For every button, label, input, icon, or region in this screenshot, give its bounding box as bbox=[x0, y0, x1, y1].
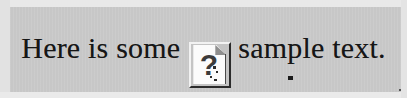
scan-artifact-speck bbox=[288, 76, 293, 80]
scan-artifact-dot bbox=[399, 89, 401, 91]
scan-speck bbox=[214, 79, 217, 81]
question-mark-glyph: ? bbox=[193, 45, 226, 84]
text-line: Here is some ? sample text. bbox=[0, 0, 407, 98]
scan-speck bbox=[210, 76, 212, 78]
text-line-run: Here is some ? sample text. bbox=[21, 33, 385, 79]
text-after-image: sample text. bbox=[238, 33, 385, 63]
scan-speck bbox=[213, 66, 216, 69]
text-before-image: Here is some bbox=[21, 33, 180, 63]
broken-image-icon: ? bbox=[189, 42, 231, 88]
screenshot-canvas: Here is some ? sample text. bbox=[0, 0, 407, 98]
scan-speck bbox=[216, 71, 218, 73]
